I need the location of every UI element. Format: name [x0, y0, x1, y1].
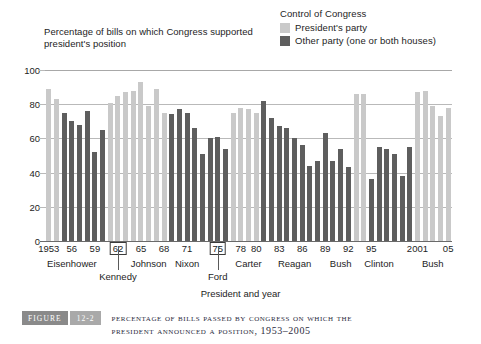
- figure-caption-line1: Percentage of Bills Passed by Congress o…: [111, 311, 352, 324]
- bar: [108, 103, 113, 242]
- president-label-clinton-8: Clinton: [364, 258, 394, 269]
- bar: [123, 92, 128, 241]
- x-tick-label-1989: 89: [320, 243, 331, 254]
- x-tick-label-1953: 1953: [38, 243, 59, 254]
- y-tick-mark-20: [39, 207, 45, 208]
- x-tick-label-1986: 86: [297, 243, 308, 254]
- x-tick-label-1983: 83: [274, 243, 285, 254]
- x-tick-label-1959: 59: [90, 243, 101, 254]
- bar: [77, 125, 82, 241]
- gridline-100: [45, 70, 452, 71]
- figure-number: 12-2: [70, 311, 102, 325]
- bar: [300, 145, 305, 241]
- bar: [246, 109, 251, 241]
- bar: [231, 113, 236, 241]
- bar: [85, 111, 90, 241]
- president-label-ford-4: Ford: [208, 271, 228, 282]
- x-tick-label-2005: 05: [443, 243, 454, 254]
- x-axis-line: [40, 241, 452, 242]
- bar: [430, 106, 435, 241]
- president-label-reagan-6: Reagan: [278, 258, 311, 269]
- president-label-carter-5: Carter: [235, 258, 261, 269]
- chart-plot: 020406080100 195356596265687175788083868…: [0, 0, 481, 300]
- plot-area: 020406080100: [45, 70, 452, 241]
- bar: [269, 118, 274, 241]
- bar: [423, 91, 428, 241]
- bar: [438, 116, 443, 241]
- president-label-bush-7: Bush: [330, 258, 352, 269]
- bar: [254, 113, 259, 241]
- figure-caption: FIGURE 12-2 Percentage of Bills Passed b…: [22, 311, 462, 337]
- bar: [131, 91, 136, 241]
- bar: [446, 108, 451, 241]
- bar: [92, 152, 97, 241]
- bar: [200, 154, 205, 241]
- bar: [292, 138, 297, 241]
- x-axis-title: President and year: [0, 288, 481, 299]
- figure-caption-text: Percentage of Bills Passed by Congress o…: [111, 311, 352, 337]
- bar: [69, 121, 74, 241]
- bar: [46, 89, 51, 241]
- bar: [115, 96, 120, 241]
- bar: [315, 161, 320, 241]
- bar: [261, 101, 266, 241]
- bar: [400, 176, 405, 241]
- bar: [346, 167, 351, 241]
- bar: [392, 154, 397, 241]
- bar: [223, 149, 228, 241]
- bar: [407, 147, 412, 241]
- y-tick-label-100: 100: [24, 65, 40, 76]
- bar: [330, 161, 335, 241]
- x-tick-label-1971: 71: [182, 243, 193, 254]
- figure-caption-line2: President Announced a Position, 1953–200…: [111, 324, 352, 337]
- bar: [238, 108, 243, 241]
- bar: [338, 149, 343, 241]
- x-tick-label-1956: 56: [67, 243, 78, 254]
- bar: [100, 130, 105, 241]
- leader-line-ford: [218, 246, 219, 270]
- bar: [138, 82, 143, 241]
- bar: [162, 113, 167, 241]
- y-tick-mark-60: [39, 138, 45, 139]
- x-tick-label-1992: 92: [343, 243, 354, 254]
- x-axis-tick-labels: 19535659626568717578808386899295200105: [0, 243, 481, 257]
- bar: [185, 113, 190, 241]
- president-label-kennedy-1: Kennedy: [99, 271, 137, 282]
- bar: [377, 147, 382, 241]
- president-labels: EisenhowerKennedyJohnsonNixonFordCarterR…: [0, 258, 481, 272]
- bar: [369, 179, 374, 241]
- y-tick-mark-100: [39, 70, 45, 71]
- bar: [361, 94, 366, 241]
- x-tick-label-2001: 2001: [407, 243, 428, 254]
- president-label-johnson-2: Johnson: [131, 258, 167, 269]
- bar: [307, 166, 312, 241]
- x-tick-label-1978: 78: [236, 243, 247, 254]
- x-tick-label-1995: 95: [366, 243, 377, 254]
- bar: [284, 128, 289, 241]
- figure-tag: FIGURE: [22, 311, 68, 325]
- bar: [54, 99, 59, 241]
- bar: [192, 128, 197, 241]
- leader-line-kennedy: [118, 246, 119, 270]
- bar: [154, 89, 159, 241]
- bar: [146, 106, 151, 241]
- bar: [215, 137, 220, 241]
- bar: [323, 133, 328, 241]
- bar: [169, 114, 174, 241]
- bar: [415, 92, 420, 241]
- bar: [177, 109, 182, 241]
- x-tick-label-1965: 65: [136, 243, 147, 254]
- president-label-eisenhower-0: Eisenhower: [47, 258, 97, 269]
- president-label-nixon-3: Nixon: [175, 258, 199, 269]
- bar: [62, 113, 67, 241]
- president-label-bush-9: Bush: [422, 258, 444, 269]
- gridline-80: [45, 104, 452, 105]
- x-tick-label-1980: 80: [251, 243, 262, 254]
- x-tick-label-1968: 68: [159, 243, 170, 254]
- bar: [384, 149, 389, 241]
- y-tick-mark-40: [39, 173, 45, 174]
- bar: [277, 126, 282, 241]
- y-tick-mark-80: [39, 104, 45, 105]
- bar: [354, 94, 359, 241]
- bar: [208, 138, 213, 241]
